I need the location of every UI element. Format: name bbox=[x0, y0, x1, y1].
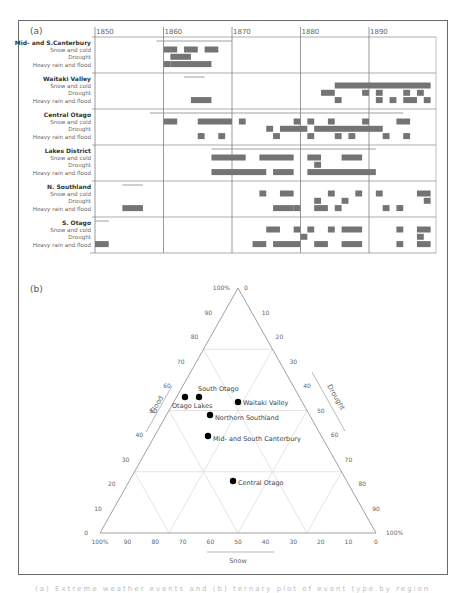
event-type-label: Snow and cold bbox=[50, 83, 91, 89]
event-bar bbox=[396, 227, 403, 233]
event-type-label: Heavy rain and flood bbox=[33, 98, 92, 105]
drought-tick: 100% bbox=[386, 529, 403, 536]
snow-tick: 100% bbox=[91, 538, 108, 545]
panel-b-ternary: (b) 00100%101090202080303070404060505050… bbox=[30, 284, 403, 565]
event-type-label: Snow and cold bbox=[50, 227, 91, 233]
flood-tick: 10 bbox=[94, 505, 102, 512]
data-point bbox=[207, 412, 213, 418]
event-bar bbox=[273, 169, 294, 175]
flood-tick: 60 bbox=[163, 382, 171, 389]
event-bar bbox=[321, 90, 335, 96]
drought-axis-label: Drought bbox=[325, 383, 346, 412]
snow-tick: 30 bbox=[289, 538, 297, 545]
event-type-label: Heavy rain and flood bbox=[33, 170, 92, 177]
event-bar bbox=[280, 126, 307, 132]
drought-tick: 20 bbox=[276, 333, 284, 340]
event-bar bbox=[348, 133, 355, 139]
event-bar bbox=[424, 97, 431, 103]
event-bar bbox=[376, 90, 383, 96]
event-type-label: Drought bbox=[68, 90, 92, 97]
flood-tick: 40 bbox=[136, 431, 144, 438]
flood-tick: 80 bbox=[191, 333, 199, 340]
region-label: Lakes District bbox=[45, 147, 91, 154]
event-type-label: Heavy rain and flood bbox=[33, 206, 92, 213]
timeline-grid: 18501860187018801890 bbox=[90, 27, 436, 253]
event-bar bbox=[239, 119, 246, 125]
ternary-grid bbox=[100, 288, 376, 533]
event-bar bbox=[294, 119, 301, 125]
region-label: Central Otago bbox=[44, 111, 91, 119]
event-bar bbox=[259, 155, 293, 161]
data-point-label: Waitaki Valley bbox=[243, 399, 289, 407]
event-bar bbox=[376, 191, 383, 197]
event-bar bbox=[328, 227, 335, 233]
event-bar bbox=[383, 205, 390, 211]
drought-tick: 50 bbox=[317, 407, 325, 414]
drought-tick: 30 bbox=[289, 358, 297, 365]
event-bar bbox=[403, 97, 417, 103]
event-type-label: Snow and cold bbox=[50, 47, 91, 53]
region-label: N. Southland bbox=[47, 183, 91, 190]
snow-tick: 80 bbox=[151, 538, 159, 545]
event-bar bbox=[390, 97, 397, 103]
event-type-label: Drought bbox=[68, 126, 92, 133]
panel-a-label: (a) bbox=[30, 26, 43, 36]
event-bar bbox=[396, 119, 410, 125]
event-bar bbox=[273, 241, 300, 247]
event-bar bbox=[376, 97, 383, 103]
event-bar bbox=[362, 90, 369, 96]
event-bar bbox=[417, 241, 431, 247]
snow-tick: 70 bbox=[179, 538, 187, 545]
panel-a-timeline: (a) 18501860187018801890 Mid- and S.Cant… bbox=[15, 26, 436, 253]
event-bar bbox=[164, 47, 178, 53]
event-bar bbox=[342, 241, 363, 247]
event-bar bbox=[335, 97, 342, 103]
data-point-label: South Otago bbox=[198, 385, 239, 393]
year-tick-label: 1880 bbox=[302, 28, 320, 36]
event-type-label: Snow and cold bbox=[50, 155, 91, 161]
event-type-label: Heavy rain and flood bbox=[33, 242, 92, 249]
event-bar bbox=[170, 54, 191, 60]
event-bar bbox=[342, 198, 349, 204]
timeline-row-labels: Mid- and S.CanterburySnow and coldDrough… bbox=[15, 39, 92, 249]
year-tick-label: 1890 bbox=[370, 28, 388, 36]
event-bar bbox=[273, 205, 294, 211]
figure-caption: (a) Extreme weather events and (b) terna… bbox=[35, 585, 435, 593]
data-point bbox=[182, 394, 188, 400]
event-bar bbox=[266, 227, 280, 233]
data-point bbox=[205, 433, 211, 439]
snow-tick: 20 bbox=[317, 538, 325, 545]
snow-tick: 40 bbox=[262, 538, 270, 545]
event-bar bbox=[95, 241, 109, 247]
event-bar bbox=[164, 61, 171, 67]
event-bar bbox=[403, 90, 410, 96]
event-type-label: Drought bbox=[68, 198, 92, 205]
event-bar bbox=[383, 133, 390, 139]
event-bar bbox=[417, 90, 424, 96]
event-type-label: Heavy rain and flood bbox=[33, 62, 92, 69]
event-bar bbox=[307, 155, 321, 161]
event-bar bbox=[307, 169, 376, 175]
event-bar bbox=[218, 133, 225, 139]
event-bar bbox=[396, 241, 403, 247]
region-label: S. Otago bbox=[62, 219, 91, 227]
event-bar bbox=[403, 133, 410, 139]
event-bar bbox=[184, 47, 198, 53]
year-tick-label: 1850 bbox=[96, 28, 114, 36]
ternary-gridline bbox=[307, 472, 342, 533]
event-type-label: Drought bbox=[68, 234, 92, 241]
event-bar bbox=[211, 155, 245, 161]
event-bar bbox=[328, 119, 335, 125]
drought-tick: 80 bbox=[358, 480, 366, 487]
flood-tick: 30 bbox=[122, 456, 130, 463]
snow-tick: 0 bbox=[374, 538, 378, 545]
event-type-label: Snow and cold bbox=[50, 191, 91, 197]
event-bar bbox=[198, 133, 205, 139]
event-bar bbox=[307, 119, 314, 125]
flood-tick: 70 bbox=[177, 358, 185, 365]
snow-tick: 10 bbox=[345, 538, 353, 545]
year-tick-label: 1870 bbox=[233, 28, 251, 36]
event-type-label: Drought bbox=[68, 54, 92, 61]
data-point bbox=[196, 394, 202, 400]
event-type-label: Drought bbox=[68, 162, 92, 169]
